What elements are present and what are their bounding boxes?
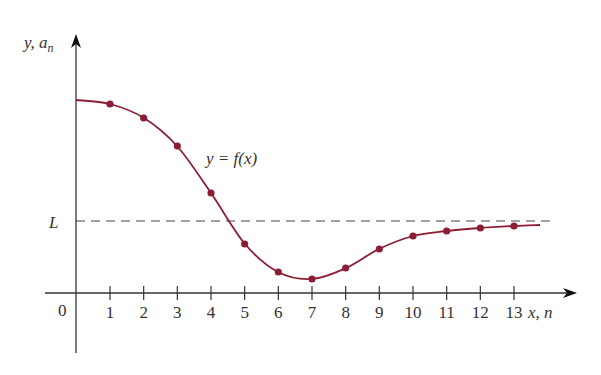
sequence-point bbox=[174, 142, 181, 149]
x-tick-label: 5 bbox=[240, 303, 249, 322]
sequence-point bbox=[241, 240, 248, 247]
sequence-points bbox=[106, 100, 517, 282]
sequence-point bbox=[342, 264, 349, 271]
x-tick-label: 7 bbox=[308, 303, 317, 322]
sequence-point bbox=[477, 224, 484, 231]
x-tick-label: 13 bbox=[506, 303, 523, 322]
sequence-point bbox=[106, 100, 113, 107]
origin-label: 0 bbox=[58, 301, 67, 320]
sequence-point bbox=[140, 114, 147, 121]
chart-canvas: 12345678910111213 y, an x, n 0 L y = f(x… bbox=[0, 0, 601, 375]
asymptote-label: L bbox=[48, 213, 58, 232]
sequence-point bbox=[510, 222, 517, 229]
y-axis-label: y, an bbox=[22, 33, 54, 55]
sequence-point bbox=[409, 232, 416, 239]
x-tick-label: 11 bbox=[438, 303, 454, 322]
x-tick-label: 12 bbox=[472, 303, 489, 322]
x-tick-label: 1 bbox=[106, 303, 115, 322]
curve-label: y = f(x) bbox=[204, 149, 257, 168]
sequence-point bbox=[308, 275, 315, 282]
x-tick-label: 8 bbox=[341, 303, 350, 322]
x-tick-label: 6 bbox=[274, 303, 283, 322]
sequence-point bbox=[376, 245, 383, 252]
x-tick-label: 9 bbox=[375, 303, 384, 322]
sequence-point bbox=[443, 227, 450, 234]
sequence-point bbox=[275, 268, 282, 275]
x-tick-label: 3 bbox=[173, 303, 182, 322]
sequence-point bbox=[207, 189, 214, 196]
x-tick-label: 2 bbox=[139, 303, 148, 322]
x-axis-label: x, n bbox=[527, 303, 553, 322]
x-tick-label: 4 bbox=[207, 303, 216, 322]
x-axis-tick-labels: 12345678910111213 bbox=[106, 303, 523, 322]
x-tick-label: 10 bbox=[405, 303, 422, 322]
function-curve bbox=[76, 100, 540, 279]
